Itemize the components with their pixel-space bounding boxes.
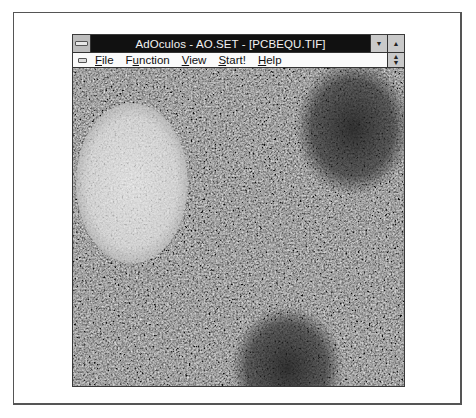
document-restore-button[interactable]: ▲ ▼ — [387, 53, 404, 67]
menu-help[interactable]: Help — [258, 54, 282, 66]
window-title: AdOculos - AO.SET - [PCBEQU.TIF] — [91, 38, 370, 50]
image-canvas[interactable] — [73, 68, 404, 386]
menu-bar: File Function View Start! Help ▲ ▼ — [73, 52, 404, 68]
menu-file[interactable]: File — [95, 54, 114, 66]
menu-function[interactable]: Function — [126, 54, 170, 66]
down-arrow-icon: ▼ — [376, 40, 383, 47]
title-bar[interactable]: AdOculos - AO.SET - [PCBEQU.TIF] ▼ ▲ — [73, 35, 404, 52]
menu-start[interactable]: Start! — [218, 54, 245, 66]
menu-view[interactable]: View — [182, 54, 207, 66]
up-arrow-icon: ▲ — [393, 40, 400, 47]
down-arrow-icon: ▼ — [393, 60, 400, 66]
minimize-button[interactable]: ▼ — [370, 35, 387, 52]
system-menu-bar-icon — [75, 41, 88, 46]
maximize-button[interactable]: ▲ — [387, 35, 404, 52]
noisy-grayscale-image — [73, 68, 404, 386]
app-window: AdOculos - AO.SET - [PCBEQU.TIF] ▼ ▲ Fil… — [72, 34, 405, 387]
document-system-menu-button[interactable] — [73, 53, 91, 67]
system-menu-button[interactable] — [73, 35, 91, 52]
document-system-menu-icon — [78, 58, 87, 63]
